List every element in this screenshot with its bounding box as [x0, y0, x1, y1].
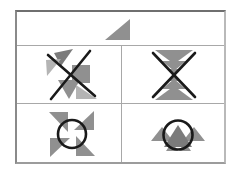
sample-right-triangle — [105, 19, 130, 40]
circled-pinwheel-cell — [17, 104, 121, 162]
sample-triangle-cell — [17, 12, 224, 45]
circle-mark — [58, 120, 86, 148]
crossed-cluster-cell — [17, 46, 121, 103]
gray-triangle-light — [46, 59, 61, 76]
circled-row-cell — [122, 104, 224, 162]
crossed-stack-cell — [122, 46, 224, 103]
puzzle-board — [15, 10, 226, 164]
